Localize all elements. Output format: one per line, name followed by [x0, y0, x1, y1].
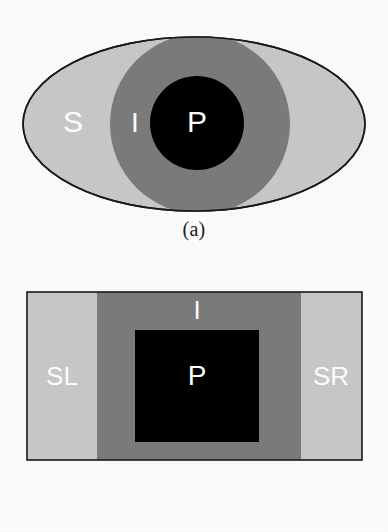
region-label-s: S	[63, 105, 83, 138]
region-label-i: I	[131, 107, 139, 138]
region-label-p: P	[187, 105, 207, 138]
panel-b-graphic: SL I SR P	[0, 266, 388, 486]
region-label-sr: SR	[313, 361, 349, 391]
panel-b: SL I SR P (b)	[0, 266, 388, 532]
panel-a-graphic: S I P	[0, 0, 388, 218]
region-label-i-b: I	[193, 295, 200, 325]
panel-a: S I P (a)	[0, 0, 388, 266]
region-label-p-b: P	[188, 360, 207, 391]
figure-container: S I P (a) SL I SR P (b)	[0, 0, 388, 532]
caption-panel-a: (a)	[0, 218, 388, 241]
region-label-sl: SL	[46, 361, 78, 391]
